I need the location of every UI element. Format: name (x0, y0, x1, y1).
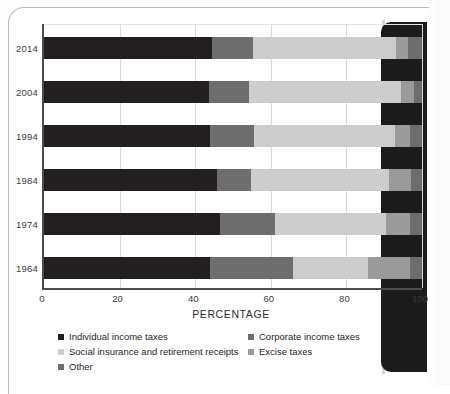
x-axis-tick-label: 80 (339, 293, 350, 304)
legend-item[interactable]: Individual income taxes (58, 331, 168, 342)
bar-segment[interactable] (249, 81, 401, 103)
bar-segment[interactable] (210, 257, 293, 279)
bar-segment[interactable] (389, 169, 411, 191)
x-axis-title: PERCENTAGE (42, 308, 420, 320)
x-axis-tick-label: 100 (412, 293, 428, 304)
gridline (195, 24, 196, 288)
legend-item[interactable]: Social insurance and retirement receipts (58, 346, 239, 357)
y-axis-tick-label: 1964 (2, 263, 38, 274)
bar-segment[interactable] (44, 169, 217, 191)
bar-segment[interactable] (408, 37, 422, 59)
bar-row[interactable] (44, 37, 422, 59)
bar-segment[interactable] (44, 257, 210, 279)
y-axis-tick-label: 1984 (2, 175, 38, 186)
legend-swatch-icon (248, 334, 254, 340)
gridline (422, 24, 423, 288)
bar-segment[interactable] (209, 81, 249, 103)
bar-row[interactable] (44, 125, 422, 147)
bar-segment[interactable] (253, 37, 397, 59)
legend-item-label: Other (69, 361, 93, 372)
bar-segment[interactable] (220, 213, 275, 235)
gridline (346, 24, 347, 288)
bar-segment[interactable] (254, 125, 395, 147)
bar-segment[interactable] (44, 125, 210, 147)
bar-row[interactable] (44, 213, 422, 235)
gridline (271, 24, 272, 288)
bar-segment[interactable] (395, 125, 410, 147)
legend-item[interactable]: Other (58, 361, 93, 372)
bar-segment[interactable] (251, 169, 389, 191)
bar-segment[interactable] (44, 37, 212, 59)
y-axis-tick-label: 1994 (2, 131, 38, 142)
x-axis-tick-label: 40 (188, 293, 199, 304)
y-axis-tick-label: 2014 (2, 43, 38, 54)
legend-item-label: Individual income taxes (69, 331, 168, 342)
plot-top-rule (44, 24, 422, 25)
bar-segment[interactable] (386, 213, 410, 235)
legend-swatch-icon (58, 334, 64, 340)
bar-segment[interactable] (212, 37, 253, 59)
bar-segment[interactable] (275, 213, 386, 235)
legend-swatch-icon (248, 349, 254, 355)
bar-segment[interactable] (410, 213, 422, 235)
legend-item[interactable]: Corporate income taxes (248, 331, 360, 342)
bar-segment[interactable] (293, 257, 368, 279)
legend-item-label: Corporate income taxes (259, 331, 360, 342)
bar-segment[interactable] (410, 125, 422, 147)
plot-area (42, 24, 422, 290)
x-axis-tick-label: 60 (264, 293, 275, 304)
bar-segment[interactable] (396, 37, 408, 59)
bar-row[interactable] (44, 81, 422, 103)
legend-swatch-icon (58, 364, 64, 370)
x-axis-tick-label: 0 (39, 293, 44, 304)
bar-segment[interactable] (368, 257, 410, 279)
bar-segment[interactable] (410, 257, 422, 279)
legend-item[interactable]: Excise taxes (248, 346, 312, 357)
legend-item-label: Social insurance and retirement receipts (69, 346, 239, 357)
bar-segment[interactable] (44, 213, 220, 235)
bar-segment[interactable] (411, 169, 422, 191)
y-axis-category-labels: 201420041994198419741964 (0, 24, 38, 288)
x-axis-tick-labels: 020406080100 (42, 293, 420, 307)
bar-row[interactable] (44, 169, 422, 191)
bar-segment[interactable] (44, 81, 209, 103)
legend-swatch-icon (58, 349, 64, 355)
chart-legend: Individual income taxesSocial insurance … (58, 331, 388, 379)
bar-segment[interactable] (217, 169, 251, 191)
bar-segment[interactable] (401, 81, 414, 103)
legend-item-label: Excise taxes (259, 346, 312, 357)
y-axis-tick-label: 1974 (2, 219, 38, 230)
gridline (120, 24, 121, 288)
x-axis-tick-label: 20 (112, 293, 123, 304)
bar-segment[interactable] (414, 81, 422, 103)
bar-row[interactable] (44, 257, 422, 279)
y-axis-tick-label: 2004 (2, 87, 38, 98)
bar-segment[interactable] (210, 125, 254, 147)
